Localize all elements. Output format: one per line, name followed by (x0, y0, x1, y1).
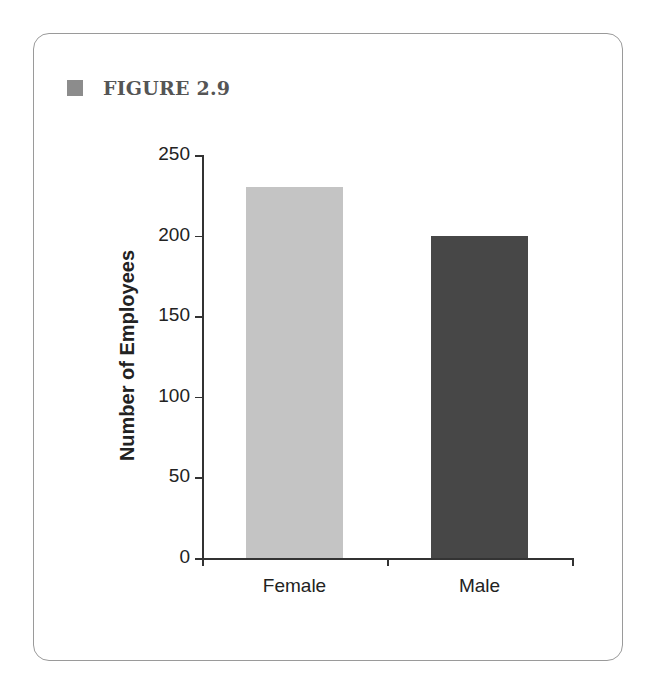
y-tick-mark (195, 236, 203, 238)
figure-square-icon (67, 80, 83, 96)
x-axis-line (195, 558, 573, 560)
y-tick-mark (195, 477, 203, 479)
figure-label: FIGURE 2.9 (103, 77, 230, 99)
y-tick-mark (195, 397, 203, 399)
y-axis-line (202, 155, 204, 559)
x-tick-mark (572, 558, 574, 566)
y-axis-label: Number of Employees (116, 236, 139, 476)
y-tick-label: 50 (130, 465, 190, 487)
y-tick-label: 250 (130, 143, 190, 165)
bar-male (431, 236, 528, 558)
y-tick-mark (195, 316, 203, 318)
y-tick-label: 150 (130, 304, 190, 326)
y-tick-label: 200 (130, 224, 190, 246)
x-tick-mark (202, 558, 204, 566)
y-tick-mark (195, 155, 203, 157)
x-tick-mark (387, 558, 389, 566)
x-category-label: Female (235, 575, 355, 597)
y-tick-label: 100 (130, 385, 190, 407)
figure-header: FIGURE 2.9 (67, 77, 230, 99)
x-category-label: Male (420, 575, 540, 597)
bar-female (246, 187, 343, 558)
y-tick-label: 0 (130, 546, 190, 568)
